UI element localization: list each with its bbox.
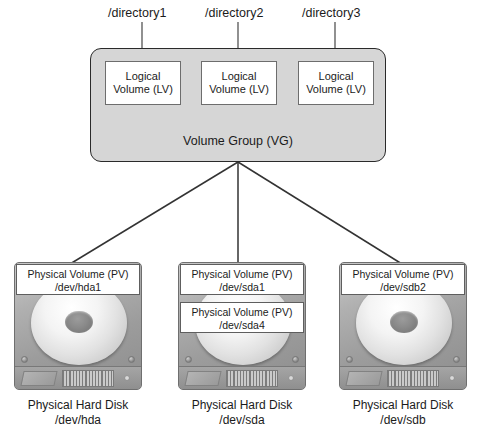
connector-vg-to-disk1 <box>70 162 238 264</box>
logical-volume-3-line2: Volume (LV) <box>306 83 366 95</box>
physical-volume-sdb2-line1: Physical Volume (PV) <box>353 268 454 280</box>
disk-base-tab <box>20 371 57 386</box>
disk-hub <box>390 311 418 333</box>
directory-label-3: /directory3 <box>302 6 360 20</box>
disk-vent-ribs <box>226 370 278 387</box>
disk-caption-3: Physical Hard Disk /dev/sdb <box>318 398 477 427</box>
disk-screw-bottom-left <box>21 356 28 363</box>
disk-screw-bottom-left <box>346 356 353 363</box>
disk-indicator-dot <box>289 376 293 380</box>
physical-hard-disk-3: Physical Volume (PV) /dev/sdb2 <box>333 258 473 398</box>
disk-base-strip <box>340 366 466 389</box>
logical-volume-box-2: Logical Volume (LV) <box>201 61 277 105</box>
disk-caption-1-line2: /dev/hda <box>55 413 101 427</box>
disk-screw-bottom-right <box>453 356 460 363</box>
physical-hard-disk-1: Physical Volume (PV) /dev/hda1 <box>8 258 148 398</box>
logical-volume-3-line1: Logical <box>319 70 354 82</box>
physical-volume-box-sda1: Physical Volume (PV) /dev/sda1 <box>180 264 304 295</box>
disk-screw-bottom-left <box>185 356 192 363</box>
logical-volume-1-line2: Volume (LV) <box>113 83 173 95</box>
physical-volume-sda1-line1: Physical Volume (PV) <box>192 268 293 280</box>
disk-caption-2-line2: /dev/sda <box>219 413 264 427</box>
physical-hard-disk-2: Physical Volume (PV) /dev/sda1 Physical … <box>172 258 312 398</box>
physical-volume-box-hda1: Physical Volume (PV) /dev/hda1 <box>16 264 140 295</box>
logical-volume-1-line1: Logical <box>126 70 161 82</box>
lvm-diagram: /directory1 /directory2 /directory3 Logi… <box>0 0 477 439</box>
volume-group-label: Volume Group (VG) <box>91 134 385 148</box>
disk-vent-ribs <box>62 370 114 387</box>
logical-volume-box-1: Logical Volume (LV) <box>105 61 181 105</box>
directory-label-1: /directory1 <box>108 6 166 20</box>
disk-hub <box>65 311 93 333</box>
volume-group-box: Logical Volume (LV) Logical Volume (LV) … <box>90 48 386 162</box>
physical-volume-sda4-line1: Physical Volume (PV) <box>192 306 293 318</box>
disk-caption-1-line1: Physical Hard Disk <box>28 398 129 412</box>
disk-caption-2-line1: Physical Hard Disk <box>192 398 293 412</box>
logical-volume-box-3: Logical Volume (LV) <box>298 61 374 105</box>
disk-vent-ribs <box>387 370 439 387</box>
directory-label-2: /directory2 <box>205 6 263 20</box>
connector-vg-to-disk3 <box>238 162 402 264</box>
physical-volume-sda1-line2: /dev/sda1 <box>181 281 303 294</box>
disk-caption-3-line2: /dev/sdb <box>380 413 425 427</box>
logical-volume-2-line1: Logical <box>222 70 257 82</box>
disk-screw-bottom-right <box>128 356 135 363</box>
disk-base-strip <box>179 366 305 389</box>
disk-base-tab <box>345 371 382 386</box>
logical-volume-2-line2: Volume (LV) <box>209 83 269 95</box>
disk-base-strip <box>15 366 141 389</box>
physical-volume-hda1-line2: /dev/hda1 <box>17 281 139 294</box>
physical-volume-sdb2-line2: /dev/sdb2 <box>342 281 464 294</box>
disk-caption-2: Physical Hard Disk /dev/sda <box>157 398 327 427</box>
physical-volume-sda4-line2: /dev/sda4 <box>181 319 303 332</box>
disk-base-tab <box>184 371 221 386</box>
disk-caption-1: Physical Hard Disk /dev/hda <box>0 398 163 427</box>
physical-volume-box-sdb2: Physical Volume (PV) /dev/sdb2 <box>341 264 465 295</box>
disk-indicator-dot <box>125 376 129 380</box>
physical-volume-box-sda4: Physical Volume (PV) /dev/sda4 <box>180 302 304 333</box>
physical-volume-hda1-line1: Physical Volume (PV) <box>28 268 129 280</box>
disk-indicator-dot <box>450 376 454 380</box>
disk-caption-3-line1: Physical Hard Disk <box>353 398 454 412</box>
disk-screw-bottom-right <box>292 356 299 363</box>
